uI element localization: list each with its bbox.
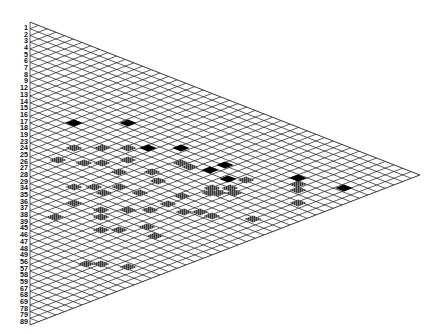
solid-cell bbox=[399, 201, 416, 208]
hatched-cell bbox=[93, 145, 110, 152]
solid-cell bbox=[65, 120, 82, 127]
hatched-cell bbox=[141, 207, 158, 214]
hatched-cell bbox=[149, 178, 166, 185]
hatched-cell bbox=[65, 145, 82, 152]
triangle-outline bbox=[30, 22, 420, 325]
ld-triangle-grid bbox=[0, 0, 447, 334]
hatched-cell bbox=[237, 177, 254, 184]
solid-cell bbox=[219, 176, 236, 183]
solid-cell bbox=[335, 185, 352, 192]
hatched-cell bbox=[203, 213, 220, 220]
hatched-cell bbox=[119, 157, 136, 164]
solid-cell bbox=[139, 145, 156, 152]
solid-cell bbox=[289, 175, 306, 182]
hatched-cell bbox=[95, 190, 112, 197]
hatched-cell bbox=[119, 207, 136, 214]
hatched-cell bbox=[46, 214, 63, 221]
hatched-cell bbox=[146, 233, 163, 240]
solid-cell bbox=[399, 193, 416, 200]
hatched-cell bbox=[49, 157, 66, 164]
solid-cell bbox=[216, 162, 233, 169]
hatched-cell bbox=[289, 181, 306, 188]
hatched-cell bbox=[138, 224, 155, 231]
hatched-cell bbox=[85, 184, 102, 191]
